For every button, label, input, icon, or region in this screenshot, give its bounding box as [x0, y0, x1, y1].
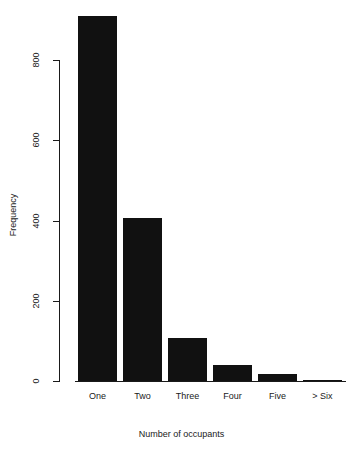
bar — [123, 218, 162, 381]
bars-layer — [0, 0, 363, 381]
plot-area: 0200400600800 Frequency OneTwoThreeFourF… — [0, 0, 363, 400]
x-axis-tick-label: > Six — [293, 391, 353, 402]
y-axis-tick — [53, 381, 59, 382]
bar — [303, 380, 342, 381]
bar-chart: 0200400600800 Frequency OneTwoThreeFourF… — [0, 0, 363, 456]
bar — [78, 16, 117, 381]
x-axis-title: Number of occupants — [0, 429, 363, 440]
bar — [258, 374, 297, 381]
bar — [168, 338, 207, 381]
bar — [213, 365, 252, 381]
x-axis-line — [75, 381, 346, 382]
